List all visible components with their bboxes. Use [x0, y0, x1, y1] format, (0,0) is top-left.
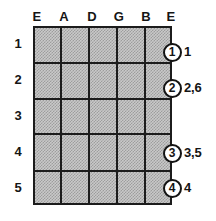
fret-number-3: 3: [9, 109, 27, 123]
fret-number-5: 5: [9, 181, 27, 195]
finger-marker-caption-2: 2,6: [184, 80, 201, 95]
finger-marker-caption-4: 4: [184, 180, 191, 195]
string-line-d: [88, 26, 90, 205]
finger-marker-4[interactable]: 4: [163, 179, 182, 198]
string-line-b: [144, 26, 146, 205]
string-label-d: D: [82, 10, 102, 24]
string-label-g: G: [109, 10, 129, 24]
fret-line-2: [33, 98, 172, 100]
string-label-a: A: [54, 10, 74, 24]
fret-number-1: 1: [9, 37, 27, 51]
fret-line-1: [33, 62, 172, 64]
string-line-g: [116, 26, 118, 205]
finger-marker-2[interactable]: 2: [163, 79, 182, 98]
fret-line-4: [33, 170, 172, 172]
finger-marker-1[interactable]: 1: [163, 43, 182, 62]
fret-line-3: [33, 133, 172, 135]
fret-number-4: 4: [9, 145, 27, 159]
fretboard-diagram: E A D G B E 1 2 3 4 5 1 1 2 2,6 3 3,5 4 …: [0, 0, 216, 221]
fret-number-2: 2: [9, 73, 27, 87]
finger-marker-3[interactable]: 3: [163, 144, 182, 163]
string-line-e-low: [33, 26, 35, 205]
string-label-e-low: E: [27, 10, 47, 24]
neck-body: [33, 26, 172, 205]
string-label-e-high: E: [161, 10, 181, 24]
string-label-b: B: [136, 10, 156, 24]
string-line-a: [60, 26, 62, 205]
finger-marker-caption-3: 3,5: [184, 145, 201, 160]
finger-marker-caption-1: 1: [184, 44, 191, 59]
